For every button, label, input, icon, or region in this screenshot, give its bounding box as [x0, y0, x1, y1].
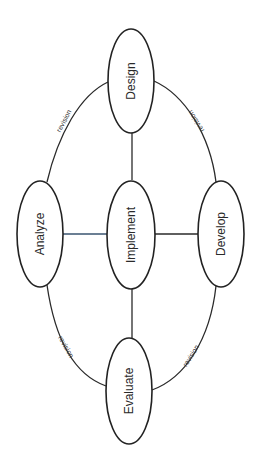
- node-label-evaluate: Evaluate: [122, 367, 136, 414]
- node-label-develop: Develop: [214, 212, 228, 256]
- node-design: Design: [108, 29, 154, 133]
- node-label-design: Design: [124, 62, 138, 99]
- node-label-analyze: Analyze: [33, 212, 47, 255]
- node-analyze: Analyze: [17, 181, 63, 287]
- node-develop: Develop: [198, 181, 244, 287]
- edge-analyze-design: [47, 82, 108, 182]
- edge-develop-evaluate: [152, 286, 216, 390]
- edge-design-develop: [154, 81, 216, 182]
- node-evaluate: Evaluate: [106, 338, 152, 444]
- edge-label-design-develop: revision: [186, 109, 205, 133]
- process-diagram: revision revision revision revision Desi…: [0, 0, 258, 458]
- edge-label-evaluate-analyze: revision: [57, 335, 75, 359]
- node-implement: Implement: [107, 181, 155, 289]
- edge-label-develop-evaluate: revision: [182, 344, 201, 368]
- node-label-implement: Implement: [124, 206, 138, 263]
- edge-evaluate-analyze: [47, 285, 106, 386]
